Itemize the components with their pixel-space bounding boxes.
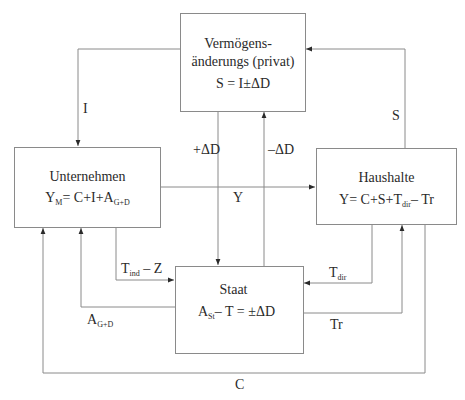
node-vermoegen-title-1: Vermögens- bbox=[175, 36, 301, 52]
label-savings: S bbox=[392, 109, 400, 123]
node-vermoegensaenderung: Vermögens- änderungs (privat) S = I±ΔD bbox=[180, 13, 306, 112]
label-indirect-tax-sub: ind bbox=[130, 269, 140, 278]
node-vermoegen-equation: S = I±ΔD bbox=[181, 76, 305, 92]
node-unternehmen-title: Unternehmen bbox=[15, 169, 160, 185]
label-indirect-tax: Tind – Z bbox=[121, 262, 162, 281]
label-consumption: C bbox=[235, 378, 244, 392]
label-direct-tax-t: T bbox=[329, 265, 338, 280]
node-haushalte-title: Haushalte bbox=[317, 170, 456, 186]
label-deficit-minus: –ΔD bbox=[268, 143, 294, 157]
node-haushalte: Haushalte Y= C+S+Tdir– Tr bbox=[316, 148, 457, 225]
eq-a: A bbox=[198, 304, 208, 319]
label-gov-purchases-sub: G+D bbox=[97, 320, 113, 329]
flow-savings-arrow bbox=[306, 49, 405, 148]
node-staat-equation: ASt– T = ±ΔD bbox=[170, 304, 303, 325]
label-indirect-tax-z: – Z bbox=[140, 261, 163, 276]
label-income: Y bbox=[233, 191, 243, 205]
eq-mid: = C+I+A bbox=[62, 190, 113, 205]
flow-transfers-arrow bbox=[303, 225, 402, 313]
label-transfers: Tr bbox=[330, 318, 343, 332]
node-staat: Staat ASt– T = ±ΔD bbox=[175, 266, 304, 354]
eq-post: – Tr bbox=[411, 192, 434, 207]
node-staat-title: Staat bbox=[164, 282, 303, 298]
node-unternehmen-equation: YM= C+I+AG+D bbox=[15, 190, 160, 211]
label-gov-purchases-a: A bbox=[87, 312, 97, 327]
label-investment: I bbox=[83, 102, 88, 116]
eq-a-sub: St bbox=[208, 312, 215, 321]
eq-post: – T = ±ΔD bbox=[215, 304, 275, 319]
eq-t-sub: dir bbox=[402, 200, 411, 209]
label-deficit-plus: +ΔD bbox=[193, 143, 220, 157]
node-unternehmen: Unternehmen YM= C+I+AG+D bbox=[14, 147, 161, 228]
label-gov-purchases: AG+D bbox=[87, 313, 113, 332]
node-vermoegen-title-2: änderungs (privat) bbox=[181, 54, 305, 70]
flow-investment-arrow bbox=[78, 49, 180, 146]
eq-a-sub: G+D bbox=[114, 198, 130, 207]
label-indirect-tax-t: T bbox=[121, 261, 130, 276]
label-direct-tax: Tdir bbox=[329, 266, 346, 285]
node-haushalte-equation: Y= C+S+Tdir– Tr bbox=[317, 192, 456, 213]
label-direct-tax-sub: dir bbox=[338, 273, 347, 282]
eq-pre: Y= C+S+T bbox=[339, 192, 402, 207]
eq-y: Y bbox=[45, 190, 55, 205]
